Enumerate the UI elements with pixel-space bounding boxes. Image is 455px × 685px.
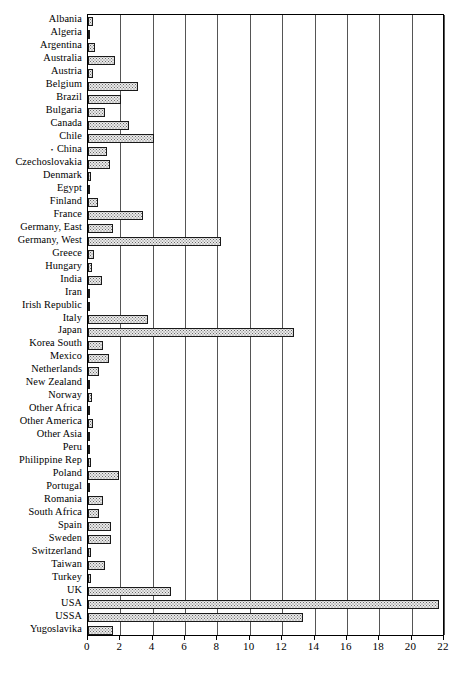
- bar: [88, 276, 102, 285]
- category-label: Romania: [0, 494, 82, 504]
- gridline: [185, 15, 186, 635]
- gridline: [315, 15, 316, 635]
- bar: [88, 483, 90, 492]
- category-label: Sweden: [0, 533, 82, 543]
- bar: [88, 354, 109, 363]
- bar: [88, 587, 171, 596]
- category-label: Switzerland: [0, 546, 82, 556]
- category-label: Other Asia: [0, 429, 82, 439]
- category-label: Australia: [0, 53, 82, 63]
- bar: [88, 263, 92, 272]
- bar: [88, 289, 90, 298]
- category-label: Iran: [0, 287, 82, 297]
- category-label: Greece: [0, 248, 82, 258]
- category-label: Finland: [0, 196, 82, 206]
- bar: [88, 432, 90, 441]
- gridline: [379, 15, 380, 635]
- bar: [88, 626, 113, 635]
- bar: [88, 198, 98, 207]
- category-label: Italy: [0, 313, 82, 323]
- category-label: Denmark: [0, 170, 82, 180]
- category-label: Canada: [0, 118, 82, 128]
- bar: [88, 82, 138, 91]
- x-axis-tick-label: 2: [116, 640, 122, 652]
- category-label: Poland: [0, 468, 82, 478]
- x-axis-tick-label: 8: [214, 640, 220, 652]
- gridline: [282, 15, 283, 635]
- category-label: Germany, East: [0, 222, 82, 232]
- bar: [88, 341, 103, 350]
- category-bullet-marker: •: [51, 146, 54, 154]
- bar: [88, 237, 221, 246]
- category-label: Peru: [0, 442, 82, 452]
- x-axis: 0246810121416182022: [87, 640, 444, 660]
- category-label: Other America: [0, 416, 82, 426]
- bar: [88, 69, 93, 78]
- bar: [88, 613, 303, 622]
- x-axis-tick-label: 4: [149, 640, 155, 652]
- bar: [88, 600, 439, 609]
- gridline: [250, 15, 251, 635]
- bar: [88, 522, 111, 531]
- category-label: Czechoslovakia: [0, 157, 82, 167]
- value-axis-baseline: [87, 14, 88, 636]
- category-label: Bulgaria: [0, 105, 82, 115]
- category-label: Argentina: [0, 40, 82, 50]
- bar: [88, 250, 94, 259]
- category-label: Korea South: [0, 338, 82, 348]
- bar: [88, 445, 90, 454]
- bar: [88, 302, 90, 311]
- category-label: Japan: [0, 325, 82, 335]
- category-label: Irish Republic: [0, 300, 82, 310]
- bar: [88, 328, 294, 337]
- category-label: USSA: [0, 611, 82, 621]
- bar: [88, 406, 90, 415]
- bar: [88, 393, 92, 402]
- category-label: UK: [0, 585, 82, 595]
- bar: [88, 121, 129, 130]
- category-label: Yugoslavika: [0, 624, 82, 634]
- bar: [88, 160, 110, 169]
- x-axis-tick-label: 22: [437, 640, 449, 652]
- bar: [88, 535, 111, 544]
- bar: [88, 172, 91, 181]
- category-label: Brazil: [0, 92, 82, 102]
- x-axis-tick-label: 18: [372, 640, 384, 652]
- category-label: Egypt: [0, 183, 82, 193]
- category-label: • China: [0, 144, 82, 155]
- gridline: [217, 15, 218, 635]
- category-label: Austria: [0, 66, 82, 76]
- bar: [88, 548, 91, 557]
- category-label: Albania: [0, 14, 82, 24]
- plot-area: [87, 14, 444, 636]
- gridline: [444, 15, 445, 635]
- bar: [88, 367, 99, 376]
- bar: [88, 574, 91, 583]
- bar: [88, 43, 95, 52]
- bar: [88, 211, 143, 220]
- category-label: Spain: [0, 520, 82, 530]
- x-axis-tick-label: 10: [243, 640, 255, 652]
- bar: [88, 419, 93, 428]
- category-label: Taiwan: [0, 559, 82, 569]
- x-axis-tick-label: 12: [275, 640, 287, 652]
- category-label: Belgium: [0, 79, 82, 89]
- bar: [88, 224, 113, 233]
- gridline: [412, 15, 413, 635]
- x-axis-tick-label: 16: [340, 640, 352, 652]
- bar: [88, 17, 93, 26]
- category-label: Netherlands: [0, 364, 82, 374]
- bar: [88, 458, 91, 467]
- bar: [88, 108, 105, 117]
- x-axis-tick-label: 6: [181, 640, 187, 652]
- category-label: Germany, West: [0, 235, 82, 245]
- category-label: USA: [0, 598, 82, 608]
- category-label: India: [0, 274, 82, 284]
- bar: [88, 56, 115, 65]
- category-label: Algeria: [0, 27, 82, 37]
- category-label: Portugal: [0, 481, 82, 491]
- category-label: Norway: [0, 390, 82, 400]
- category-label: Philippine Rep: [0, 455, 82, 465]
- bar: [88, 147, 107, 156]
- category-label: Mexico: [0, 351, 82, 361]
